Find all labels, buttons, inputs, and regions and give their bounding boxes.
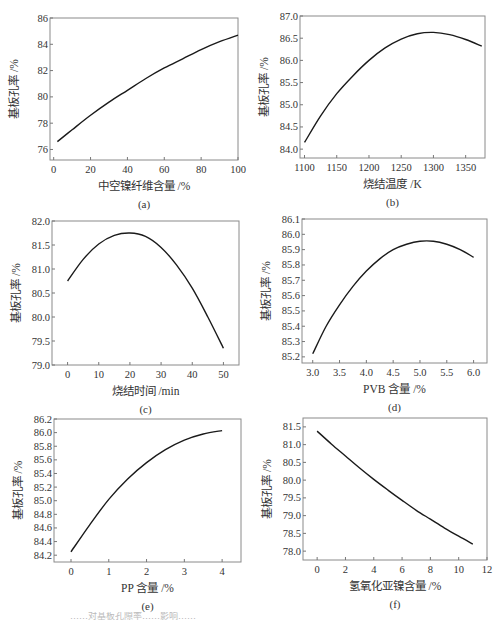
chart-figure: 767880828486020406080100中空镍纤维含量 /%基板孔率 /… [0, 0, 500, 620]
y-axis-label: 基板孔率 /% [7, 59, 20, 119]
y-tick-label: 86.0 [282, 229, 300, 240]
x-axis-label: PP 含量 /% [121, 581, 174, 594]
y-tick-label: 85.8 [282, 259, 300, 270]
y-tick-label: 82.0 [32, 216, 50, 227]
y-tick-label: 78.0 [283, 546, 301, 557]
subplot-label: (a) [138, 198, 151, 211]
x-tick-label: 40 [187, 369, 198, 380]
chart-panel-d: 85.285.385.485.585.685.785.885.986.086.1… [259, 214, 487, 415]
plot-frame [50, 18, 238, 160]
x-tick-label: 30 [156, 369, 167, 380]
y-tick-label: 80.5 [32, 288, 50, 299]
x-tick-label: 6 [399, 564, 404, 575]
x-tick-label: 3.0 [306, 367, 319, 378]
y-tick-label: 80.0 [283, 475, 301, 486]
data-curve [71, 431, 222, 552]
y-tick-label: 85.5 [282, 305, 300, 316]
y-tick-label: 85.8 [34, 441, 52, 452]
x-tick-label: 0 [65, 369, 70, 380]
y-tick-label: 86 [38, 13, 49, 24]
x-tick-label: 6.0 [467, 367, 480, 378]
y-tick-label: 79.5 [283, 492, 301, 503]
y-axis-label: 基板孔率 /% [259, 261, 272, 321]
y-tick-label: 80.5 [283, 457, 301, 468]
plot-frame [52, 221, 239, 365]
data-curve [57, 35, 238, 142]
chart-panel-e: 84.284.484.684.885.085.285.485.685.886.0… [11, 414, 241, 614]
y-tick-label: 78.5 [283, 528, 301, 539]
data-curve [305, 32, 482, 142]
x-axis-label: 氢氧化亚镍含量 /% [349, 579, 442, 592]
x-tick-label: 4.5 [387, 367, 400, 378]
x-tick-label: 20 [125, 369, 136, 380]
x-tick-label: 80 [196, 164, 207, 175]
y-tick-label: 85.2 [34, 482, 52, 493]
subplot-label: (b) [386, 196, 399, 209]
x-tick-label: 10 [94, 369, 105, 380]
x-tick-label: 1350 [455, 162, 476, 173]
y-tick-label: 86.5 [280, 33, 298, 44]
x-axis-label: 烧结温度 /K [363, 177, 422, 190]
plot-frame [302, 219, 487, 363]
x-tick-label: 4 [371, 564, 377, 575]
y-tick-label: 85.0 [280, 99, 298, 110]
figure: 767880828486020406080100中空镍纤维含量 /%基板孔率 /… [0, 0, 500, 620]
x-tick-label: 5.0 [413, 367, 426, 378]
y-axis-label: 基板孔率 /% [257, 57, 270, 117]
x-tick-label: 4 [219, 566, 225, 577]
plot-frame [54, 419, 241, 562]
y-tick-label: 86.2 [34, 414, 52, 425]
y-tick-label: 85.2 [282, 351, 300, 362]
y-tick-label: 81.0 [283, 439, 301, 450]
x-tick-label: 2 [343, 564, 348, 575]
y-tick-label: 84.0 [280, 144, 298, 155]
y-tick-label: 85.3 [282, 336, 300, 347]
x-tick-label: 20 [85, 164, 96, 175]
x-tick-label: 50 [218, 369, 229, 380]
x-tick-label: 40 [122, 164, 133, 175]
x-tick-label: 1300 [423, 162, 444, 173]
y-tick-label: 84.4 [34, 536, 53, 547]
x-tick-label: 10 [453, 564, 464, 575]
chart-panel-f: 78.078.579.079.580.080.581.081.502468101… [260, 418, 492, 611]
chart-panel-c: 79.079.580.080.581.081.582.001020304050烧… [9, 216, 239, 417]
x-axis-label: 中空镍纤维含量 /% [98, 179, 191, 192]
x-tick-label: 2 [144, 566, 149, 577]
chart-panel-b: 84.084.585.085.586.086.587.0110011501200… [257, 11, 485, 210]
y-tick-label: 86.1 [282, 214, 300, 225]
x-tick-label: 12 [482, 564, 493, 575]
y-axis-label: 基板孔率 /% [9, 263, 22, 323]
x-tick-label: 1250 [391, 162, 412, 173]
x-tick-label: 1 [106, 566, 111, 577]
y-tick-label: 85.7 [282, 275, 300, 286]
y-tick-label: 82 [38, 65, 49, 76]
y-tick-label: 78 [38, 118, 49, 129]
x-tick-label: 8 [428, 564, 433, 575]
x-tick-label: 3 [182, 566, 187, 577]
y-tick-label: 85.6 [282, 290, 300, 301]
data-curve [68, 233, 224, 348]
x-axis-label: PVB 含量 /% [363, 382, 426, 395]
y-tick-label: 81.5 [283, 421, 301, 432]
data-curve [317, 431, 473, 544]
x-tick-label: 1150 [326, 162, 347, 173]
y-tick-label: 85.6 [34, 454, 52, 465]
y-tick-label: 85.0 [34, 495, 52, 506]
plot-frame [303, 418, 487, 560]
y-tick-label: 76 [38, 144, 49, 155]
y-axis-label: 基板孔率 /% [260, 459, 273, 519]
subplot-label: (d) [388, 401, 401, 414]
y-tick-label: 85.5 [280, 77, 298, 88]
y-tick-label: 80.0 [32, 312, 50, 323]
y-tick-label: 84 [38, 39, 49, 50]
x-tick-label: 5.5 [440, 367, 453, 378]
y-tick-label: 84.6 [34, 522, 52, 533]
y-tick-label: 84.8 [34, 509, 52, 520]
x-tick-label: 100 [230, 164, 246, 175]
x-axis-label: 烧结时间 /min [112, 385, 180, 397]
x-tick-label: 0 [68, 566, 73, 577]
y-tick-label: 84.5 [280, 121, 298, 132]
chart-panel-a: 767880828486020406080100中空镍纤维含量 /%基板孔率 /… [7, 13, 246, 212]
x-tick-label: 1200 [358, 162, 379, 173]
y-tick-label: 84.2 [34, 550, 52, 561]
